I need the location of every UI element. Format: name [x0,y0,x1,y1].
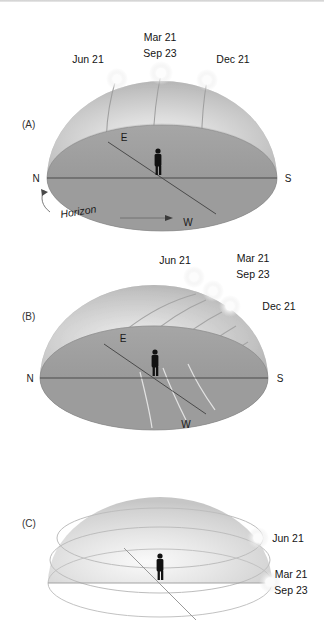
sun-label-jun-21-b: Jun 21 [159,254,191,266]
sun-label-sep-23-a: Sep 23 [143,47,176,59]
compass-north-a: N [32,173,39,184]
sun-label-mar-21-c: Mar 21 [275,568,308,580]
compass-south-a: S [285,173,292,184]
compass-east-b: E [120,333,127,344]
panel-b: (B) Jun 21 Mar 21 Sep 23 Dec 21 N E S W [22,252,296,438]
sun-label-mar-21-b: Mar 21 [237,252,270,264]
panel-label-a: (A) [22,119,35,130]
sun-label-dec-21-a: Dec 21 [216,53,249,65]
compass-south-b: S [277,373,284,384]
compass-west-a: W [183,217,193,228]
sun-label-sep-23-c: Sep 23 [274,584,307,596]
sun-label-jun-21-c: Jun 21 [272,532,304,544]
sun-label-dec-21-b: Dec 21 [262,300,295,312]
horizon-arrowhead-up-a [41,189,48,196]
compass-east-a: E [121,132,128,143]
compass-west-b: W [181,419,191,430]
celestial-sphere-figure: (A) Jun 21 Mar 21 Sep 23 Dec 21 N E S W … [0,0,324,630]
compass-north-b: N [26,373,33,384]
panel-label-c: (C) [22,518,36,529]
panel-a: (A) Jun 21 Mar 21 Sep 23 Dec 21 N E S W … [22,31,292,232]
panel-c: (C) Jun 21 Mar 21 Sep 23 [22,497,308,620]
panel-label-b: (B) [22,311,35,322]
sun-label-sep-23-b: Sep 23 [236,268,269,280]
ground-front-b [40,378,268,430]
sun-label-jun-21-a: Jun 21 [72,53,104,65]
sun-label-mar-21-a: Mar 21 [144,31,177,43]
